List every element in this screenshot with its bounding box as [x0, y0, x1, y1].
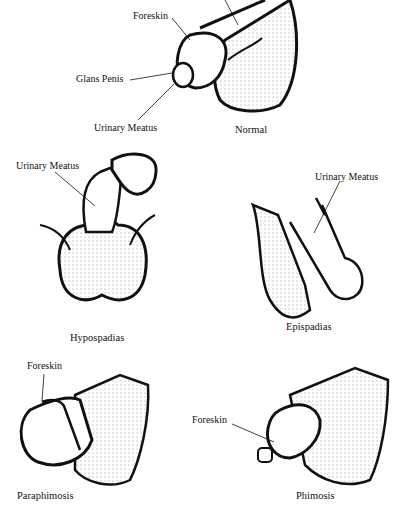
hypospadias-caption: Hypospadias [70, 332, 124, 344]
normal-caption: Normal [235, 124, 267, 136]
hypospadias-urinary-meatus-label: Urinary Meatus [16, 160, 79, 172]
epispadias-urinary-meatus-label: Urinary Meatus [315, 171, 378, 183]
normal-foreskin-label: Foreskin [133, 10, 168, 22]
normal-urinary-meatus-label: Urinary Meatus [94, 122, 157, 134]
paraphimosis-caption: Paraphimosis [17, 490, 74, 502]
paraphimosis-leader-line [42, 374, 44, 401]
paraphimosis-foreskin-label: Foreskin [27, 360, 62, 372]
epispadias-drawing [253, 198, 362, 317]
paraphimosis-drawing [21, 375, 148, 485]
illustration-canvas [0, 0, 410, 514]
hypospadias-drawing [40, 154, 156, 300]
phimosis-caption: Phimosis [296, 490, 335, 502]
phimosis-foreskin-label: Foreskin [192, 414, 227, 426]
phimosis-drawing [258, 368, 388, 484]
normal-drawing [173, 0, 297, 111]
epispadias-caption: Epispadias [286, 321, 332, 333]
normal-glans-penis-label: Glans Penis [76, 73, 124, 85]
